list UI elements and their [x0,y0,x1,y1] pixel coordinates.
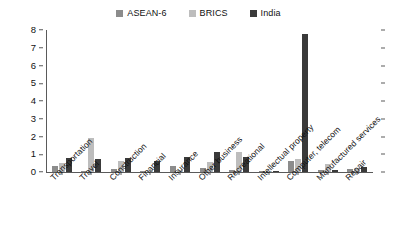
y-tick-dash-right-3 [381,118,385,119]
y-tick-dash [39,83,43,84]
legend-swatch-asean6 [116,10,123,17]
y-tick-label: 4 [28,96,36,106]
y-tick-0: 0 [28,167,43,177]
y-tick-label: 0 [28,167,36,177]
y-tick-label: 5 [28,79,36,89]
legend-item-brics[interactable]: BRICS [189,9,228,18]
y-tick-dash-right-5 [381,83,385,84]
y-tick-label: 8 [28,25,36,35]
y-tick-label: 6 [28,61,36,71]
y-tick-dash-right-8 [381,30,385,31]
bar-chart: ASEAN-6 BRICS India 012345678 Transporta… [0,0,397,247]
y-tick-5: 5 [28,79,43,89]
y-tick-dash [39,172,43,173]
legend-swatch-india [250,10,257,17]
y-tick-dash [39,136,43,137]
y-tick-8: 8 [28,25,43,35]
y-tick-dash-right-7 [381,47,385,48]
y-tick-dash-right-0 [381,172,385,173]
plot-area: 012345678 [47,30,372,172]
y-tick-label: 1 [28,150,36,160]
y-tick-dash [39,65,43,66]
y-tick-dash [39,30,43,31]
legend-label-india: India [261,9,281,18]
bar[interactable] [273,171,279,172]
legend-item-asean6[interactable]: ASEAN-6 [116,9,166,18]
y-tick-dash [39,154,43,155]
y-tick-3: 3 [28,114,43,124]
y-tick-2: 2 [28,132,43,142]
y-tick-1: 1 [28,150,43,160]
y-tick-dash-right-1 [381,154,385,155]
legend-item-india[interactable]: India [250,9,281,18]
bar-groups [47,30,372,172]
y-tick-label: 7 [28,43,36,53]
y-tick-4: 4 [28,96,43,106]
y-tick-dash-right-6 [381,65,385,66]
y-tick-dash-right-2 [381,136,385,137]
chart-legend: ASEAN-6 BRICS India [0,6,397,20]
y-tick-dash [39,118,43,119]
legend-label-brics: BRICS [200,9,228,18]
legend-swatch-brics [189,10,196,17]
y-tick-7: 7 [28,43,43,53]
y-tick-dash-right-4 [381,101,385,102]
y-tick-label: 2 [28,132,36,142]
y-tick-label: 3 [28,114,36,124]
y-tick-dash [39,101,43,102]
legend-label-asean6: ASEAN-6 [127,9,166,18]
y-tick-6: 6 [28,61,43,71]
y-tick-dash [39,47,43,48]
x-axis-labels: TransportationTravelConstructionFinancia… [47,176,372,246]
